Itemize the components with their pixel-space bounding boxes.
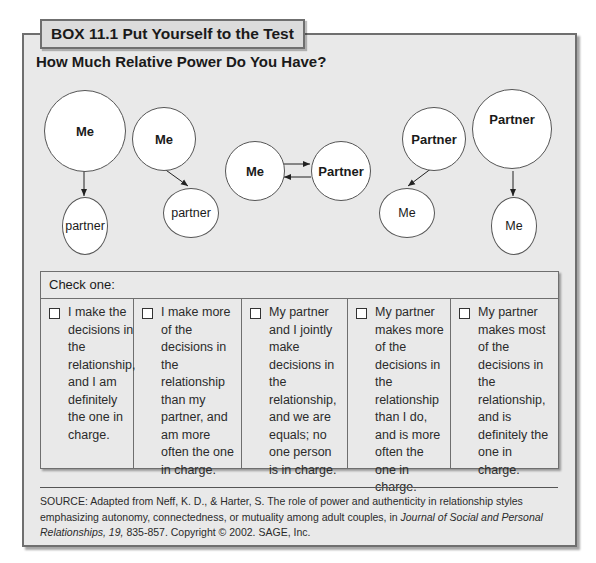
circle-label: Me xyxy=(155,132,173,147)
option-text: My partner and I jointly make decisions … xyxy=(269,304,343,468)
me-circle-equal: Me xyxy=(225,141,285,201)
me-circle-medium-bottom: Me xyxy=(379,188,435,238)
option-cell-3[interactable]: My partner and I jointly make decisions … xyxy=(242,299,348,468)
circle-label: Me xyxy=(398,206,415,220)
circle-label: partner xyxy=(65,219,105,233)
me-circle-medium: Me xyxy=(132,107,196,171)
circle-label: Partner xyxy=(489,112,535,127)
power-diagram: Me partner Me partner Me Partner Partner… xyxy=(0,0,596,270)
partner-circle-large: Partner xyxy=(472,89,552,169)
source-note: SOURCE: Adapted from Neff, K. D., & Hart… xyxy=(40,494,560,541)
source-citation: 835-857. Copyright © 2002. SAGE, Inc. xyxy=(123,526,310,538)
checkbox-icon[interactable] xyxy=(459,308,470,319)
partner-circle-medium: partner xyxy=(163,188,219,238)
option-cell-5[interactable]: My partner makes most of the decisions i… xyxy=(451,299,558,468)
option-cell-4[interactable]: My partner makes more of the decisions i… xyxy=(348,299,451,468)
circle-label: Me xyxy=(76,124,94,139)
checkbox-icon[interactable] xyxy=(356,308,367,319)
option-cell-2[interactable]: I make more of the decisions in the rela… xyxy=(134,299,242,468)
circle-label: Me xyxy=(505,219,522,233)
me-circle-small: Me xyxy=(491,197,537,255)
checkbox-icon[interactable] xyxy=(49,308,60,319)
partner-circle-equal: Partner xyxy=(311,141,371,201)
partner-circle-small: partner xyxy=(62,197,108,255)
option-text: My partner makes more of the decisions i… xyxy=(375,304,446,468)
check-one-table: Check one: I make the decisions in the r… xyxy=(40,271,559,469)
check-one-header: Check one: xyxy=(41,272,558,299)
circle-label: Partner xyxy=(318,164,364,179)
checkbox-icon[interactable] xyxy=(250,308,261,319)
option-text: My partner makes most of the decisions i… xyxy=(478,304,554,468)
circle-label: Partner xyxy=(411,132,457,147)
options-row: I make the decisions in the relationship… xyxy=(41,299,558,468)
option-text: I make more of the decisions in the rela… xyxy=(161,304,237,468)
option-text: I make the decisions in the relationship… xyxy=(68,304,135,468)
circle-label: Me xyxy=(246,164,264,179)
circle-label: partner xyxy=(171,206,211,220)
source-divider xyxy=(40,487,558,488)
partner-circle-medium-top: Partner xyxy=(402,107,466,171)
option-cell-1[interactable]: I make the decisions in the relationship… xyxy=(41,299,134,468)
checkbox-icon[interactable] xyxy=(142,308,153,319)
me-circle-large: Me xyxy=(44,90,126,172)
